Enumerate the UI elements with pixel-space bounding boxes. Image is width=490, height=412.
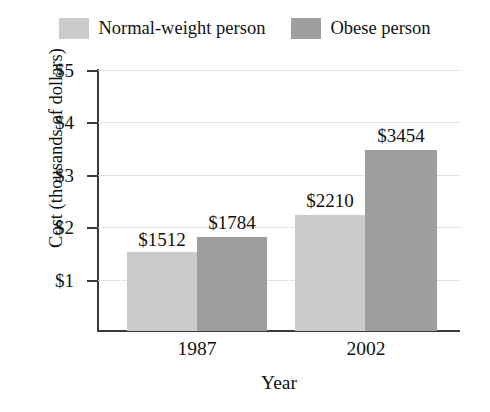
x-tick-label-2002: 2002 — [316, 338, 416, 360]
bar-value-2002-normal-weight: $2210 — [280, 191, 380, 210]
bar-1987-obese — [197, 237, 267, 331]
gridline-4 — [98, 122, 460, 123]
legend-swatch-obese-icon — [291, 18, 321, 39]
bar-value-2002-obese: $3454 — [351, 126, 451, 145]
bar-value-1987-normal-weight: $1512 — [112, 230, 212, 249]
y-axis-title: Cost (thousands of dollars) — [46, 13, 66, 283]
legend-item-normal-weight: Normal-weight person — [59, 18, 265, 39]
x-tick-label-1987: 1987 — [147, 338, 247, 360]
gridline-5 — [98, 70, 460, 71]
bar-value-1987-obese: $1784 — [182, 213, 282, 232]
plot-area: $1512 $1784 $2210 $3454 — [98, 70, 460, 331]
bar-1987-normal-weight — [127, 252, 197, 331]
chart-legend: Normal-weight person Obese person — [0, 8, 490, 48]
bar-chart: Normal-weight person Obese person $5 $4 … — [0, 0, 490, 412]
bar-2002-normal-weight — [295, 215, 365, 331]
x-axis-title: Year — [98, 372, 460, 394]
bar-2002-obese — [365, 150, 437, 331]
legend-label-obese: Obese person — [330, 18, 430, 39]
x-tick-labels: 1987 2002 — [98, 338, 460, 366]
legend-label-normal-weight: Normal-weight person — [98, 18, 265, 39]
legend-item-obese: Obese person — [291, 18, 430, 39]
